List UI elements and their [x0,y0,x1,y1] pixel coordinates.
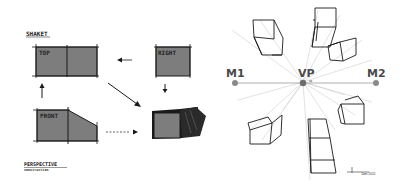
vp-point [300,80,306,86]
right-view-label: RIGHT [158,49,176,56]
signature-text: Jam 2011 [361,172,376,176]
front-view: FRONT [33,107,99,144]
vp-small-label: vp [309,79,313,83]
right-view: RIGHT [154,44,192,78]
caption-title: PERSPECTIVE [24,161,57,167]
top-view-label: TOP [39,49,50,56]
perspective-block [152,107,206,139]
m1-label: M1 [226,67,245,80]
perspective-boxes [248,8,364,173]
front-view-label: FRONT [40,112,58,119]
m2-label: M2 [367,67,386,80]
sheet-label: SHAKET [26,30,48,37]
m1-point [232,80,238,86]
perspective-sketch: SHAKET TOP RIGHT FRONT [0,0,403,191]
caption-sub: construction [24,168,49,172]
construction-guides [232,10,372,180]
m2-point [373,80,379,86]
signature: Jam 2011 [347,167,376,176]
top-view: TOP [32,44,99,78]
